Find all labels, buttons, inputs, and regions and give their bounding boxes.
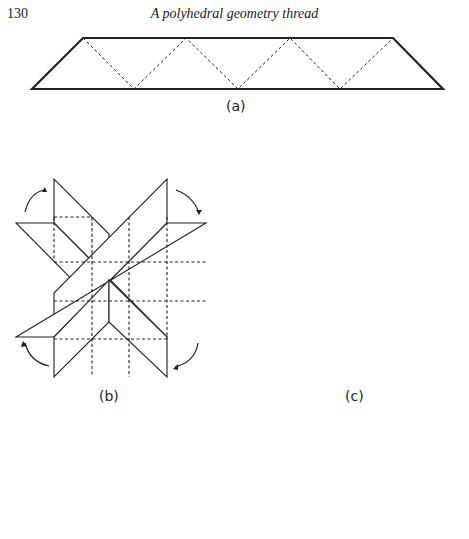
- figure-label-a: (a): [226, 98, 246, 114]
- figure-canvas: [0, 0, 469, 539]
- figure-label-c: (c): [345, 388, 364, 404]
- figure-label-b: (b): [99, 388, 119, 404]
- figure-a-strip: [32, 38, 443, 89]
- figure-b-cross: [16, 179, 206, 377]
